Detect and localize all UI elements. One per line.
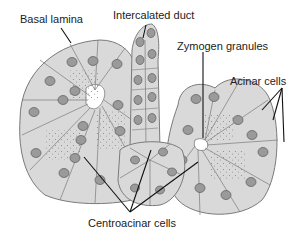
label-intercalated-duct: Intercalated duct: [113, 9, 194, 21]
label-acinar-cells: Acinar cells: [230, 75, 286, 87]
acinus-illustration: [0, 0, 297, 241]
label-zymogen-granules: Zymogen granules: [177, 40, 268, 52]
acinus-diagram: Basal lamina Intercalated duct Zymogen g…: [0, 0, 297, 241]
intercalated-duct: [130, 24, 160, 150]
label-centroacinar-cells: Centroacinar cells: [88, 217, 176, 229]
label-basal-lamina: Basal lamina: [20, 13, 83, 25]
right-acinus-lobe: [166, 79, 278, 215]
left-acinus-lobe: [20, 40, 134, 204]
